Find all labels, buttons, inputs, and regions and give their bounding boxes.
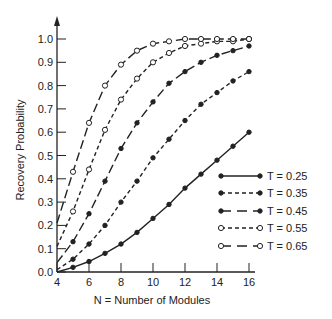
data-point-marker <box>71 265 75 269</box>
legend-label: T = 0.65 <box>267 240 307 252</box>
data-point-marker <box>247 44 251 48</box>
data-point-marker <box>198 36 203 41</box>
y-tick-label: 0.5 <box>38 150 53 162</box>
data-point-marker <box>247 130 251 134</box>
legend-marker <box>258 191 262 195</box>
legend-marker <box>257 243 262 248</box>
data-point-marker <box>134 48 139 53</box>
x-axis-label: N = Number of Modules <box>94 294 211 306</box>
data-point-marker <box>134 76 139 81</box>
legend-marker <box>219 174 223 178</box>
legend-label: T = 0.25 <box>267 170 307 182</box>
data-point-marker <box>166 39 171 44</box>
data-point-marker <box>103 223 107 227</box>
x-tick-label: 10 <box>147 276 159 288</box>
legend-label: T = 0.45 <box>267 205 307 217</box>
data-point-marker <box>247 69 251 73</box>
legend: T = 0.25T = 0.35T = 0.45T = 0.55T = 0.65 <box>218 170 307 252</box>
series-line <box>57 132 249 272</box>
data-point-marker <box>71 257 75 261</box>
data-point-marker <box>215 90 219 94</box>
data-point-marker <box>231 144 235 148</box>
y-tick-label: 0.7 <box>38 103 53 115</box>
data-point-marker <box>183 69 187 73</box>
y-tick-label: 1.0 <box>38 33 53 45</box>
data-point-marker <box>150 60 155 65</box>
x-tick-label: 12 <box>179 276 191 288</box>
data-point-marker <box>167 137 171 141</box>
data-point-marker <box>119 242 123 246</box>
x-tick-label: 4 <box>54 276 60 288</box>
data-point-marker <box>135 230 139 234</box>
y-tick-label: 0.2 <box>38 219 53 231</box>
y-tick-label: 0.0 <box>38 266 53 278</box>
data-point-marker <box>86 120 91 125</box>
y-tick-label: 0.1 <box>38 243 53 255</box>
data-point-marker <box>70 209 75 214</box>
data-point-marker <box>150 41 155 46</box>
data-point-marker <box>230 36 235 41</box>
data-point-marker <box>71 240 75 244</box>
data-point-marker <box>86 167 91 172</box>
data-point-marker <box>151 216 155 220</box>
y-tick-label: 0.8 <box>38 80 53 92</box>
y-tick-label: 0.3 <box>38 196 53 208</box>
data-point-marker <box>199 172 203 176</box>
legend-marker <box>218 243 223 248</box>
data-point-marker <box>103 251 107 255</box>
series-line <box>57 39 249 246</box>
data-point-marker <box>87 242 91 246</box>
data-point-marker <box>87 212 91 216</box>
legend-marker <box>218 225 223 230</box>
y-axis-label: Recovery Probability <box>14 99 26 200</box>
data-point-marker <box>182 43 187 48</box>
data-point-marker <box>119 146 123 150</box>
x-tick-label: 6 <box>86 276 92 288</box>
data-point-marker <box>119 200 123 204</box>
x-tick-label: 14 <box>211 276 223 288</box>
data-point-marker <box>135 179 139 183</box>
data-point-marker <box>87 259 91 263</box>
legend-label: T = 0.55 <box>267 222 307 234</box>
legend-marker <box>219 209 223 213</box>
data-point-marker <box>167 81 171 85</box>
data-point-marker <box>135 121 139 125</box>
data-point-marker <box>182 36 187 41</box>
x-tick-label: 16 <box>243 276 255 288</box>
data-point-marker <box>167 202 171 206</box>
y-tick-label: 0.6 <box>38 126 53 138</box>
legend-marker <box>219 191 223 195</box>
data-point-marker <box>231 48 235 52</box>
data-point-marker <box>103 179 107 183</box>
x-tick-label: 8 <box>118 276 124 288</box>
legend-label: T = 0.35 <box>267 187 307 199</box>
data-point-marker <box>214 36 219 41</box>
y-tick-label: 0.9 <box>38 56 53 68</box>
data-point-marker <box>166 50 171 55</box>
legend-marker <box>258 174 262 178</box>
data-point-marker <box>118 62 123 67</box>
series-lines <box>57 36 252 272</box>
data-point-marker <box>102 127 107 132</box>
data-point-marker <box>199 60 203 64</box>
data-point-marker <box>215 158 219 162</box>
data-point-marker <box>151 100 155 104</box>
data-point-marker <box>246 36 251 41</box>
data-point-marker <box>199 102 203 106</box>
data-point-marker <box>151 156 155 160</box>
y-axis-arrow-icon <box>54 16 60 26</box>
recovery-probability-chart: 0.00.10.20.30.40.50.60.70.80.91.04681012… <box>0 0 332 319</box>
legend-marker <box>257 225 262 230</box>
data-point-marker <box>70 169 75 174</box>
data-point-marker <box>231 79 235 83</box>
data-point-marker <box>102 83 107 88</box>
data-point-marker <box>183 118 187 122</box>
y-tick-label: 0.4 <box>38 173 53 185</box>
data-point-marker <box>118 97 123 102</box>
data-point-marker <box>183 186 187 190</box>
legend-marker <box>258 209 262 213</box>
data-point-marker <box>215 53 219 57</box>
